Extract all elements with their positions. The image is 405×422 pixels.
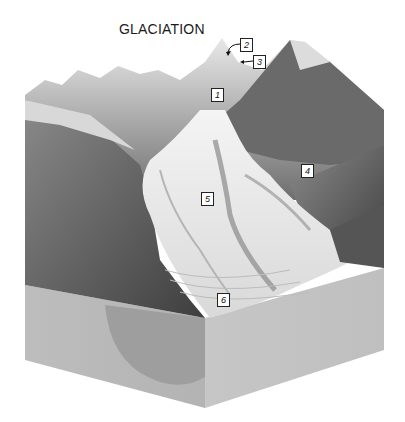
label-6-terminus: 6 xyxy=(217,293,230,307)
label-3-arete: 3 xyxy=(253,55,266,69)
label-4-tributary: 4 xyxy=(301,164,314,178)
label-1-cirque: 1 xyxy=(211,88,224,102)
label-2-horn: 2 xyxy=(240,38,253,52)
label-5-moraine: 5 xyxy=(201,192,214,206)
glacier-block-illustration xyxy=(0,0,405,422)
